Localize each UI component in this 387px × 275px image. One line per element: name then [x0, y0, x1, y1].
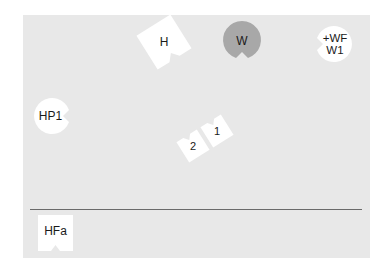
piece-2[interactable]: 2 [176, 129, 209, 162]
piece-label: 1 [205, 119, 229, 143]
piece-hp1[interactable]: HP1 [34, 98, 70, 134]
piece-label: H [144, 22, 184, 62]
piece-label: HFa [38, 213, 73, 249]
piece-h[interactable]: H [136, 14, 191, 69]
piece-label: +WF W1 [316, 26, 352, 62]
piece-label: HP1 [34, 98, 70, 134]
piece-w[interactable]: W [223, 21, 261, 59]
board-divider [30, 209, 362, 210]
piece-label: 2 [181, 134, 205, 158]
piece-label: W [223, 22, 261, 60]
piece-wf-w1[interactable]: +WF W1 [316, 26, 352, 62]
piece-hfa[interactable]: HFa [38, 215, 73, 251]
